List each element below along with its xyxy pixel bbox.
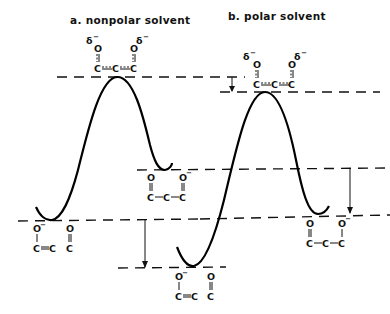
svg-text:C: C [288,79,295,90]
svg-text:C: C [179,192,186,203]
energy-levels [18,77,390,268]
svg-text:−: − [182,269,188,277]
product-shift-arrow [347,168,353,214]
svg-text:C: C [271,79,278,90]
product-structure-polar: O C C C O − [306,215,351,249]
svg-text:−: − [40,221,46,229]
svg-text:δ: δ [86,35,93,46]
reactant-shift-arrow [142,219,148,268]
svg-text:O: O [66,223,74,234]
svg-text:C: C [322,238,329,249]
product-polar-level [200,215,390,219]
ts-structure-polar: δ − δ − O O C C C [243,49,307,90]
svg-text:C: C [147,192,154,203]
svg-text:C: C [207,291,214,302]
svg-text:O: O [207,271,215,282]
svg-text:C: C [191,291,198,302]
svg-text:−: − [143,33,149,41]
svg-text:O: O [147,172,155,183]
title-nonpolar-solvent: a. nonpolar solvent [70,14,190,26]
svg-text:C: C [49,243,56,254]
svg-text:O: O [94,43,102,54]
svg-text:O: O [130,43,138,54]
svg-text:C: C [306,238,313,249]
svg-text:O: O [288,59,296,70]
svg-text:−: − [345,215,351,223]
svg-text:C: C [175,291,182,302]
svg-text:−: − [250,49,256,57]
svg-text:−: − [186,169,192,177]
ts-structure-nonpolar: δ − δ − O O C C C [86,33,149,74]
svg-text:C: C [163,192,170,203]
svg-text:C: C [33,243,40,254]
energy-diagram: a. nonpolar solvent b. polar solvent δ −… [0,0,390,314]
product-nonpolar-level [137,168,390,170]
svg-text:δ: δ [243,51,250,62]
product-structure-nonpolar: O C C C O − [147,169,192,203]
reactant-structure-nonpolar: O − C C O C [33,221,74,254]
svg-text:C: C [66,243,73,254]
svg-text:C: C [338,238,345,249]
svg-text:O: O [253,59,261,70]
title-polar-solvent: b. polar solvent [228,10,326,22]
reactant-polar-level [118,267,226,268]
svg-text:O: O [306,218,314,229]
svg-text:C: C [253,79,260,90]
svg-text:−: − [301,49,307,57]
svg-text:−: − [93,33,99,41]
ts-shift-arrow [229,77,235,92]
svg-text:C: C [112,63,119,74]
svg-text:C: C [94,63,101,74]
svg-text:C: C [130,63,137,74]
reactant-structure-polar: O − C C O C [175,269,215,302]
